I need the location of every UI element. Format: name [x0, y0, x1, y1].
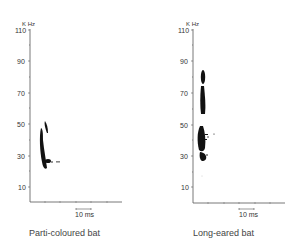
- left-tick-90: 90: [17, 58, 25, 65]
- right-tick-90: 90: [180, 58, 188, 65]
- left-tick-10: 10: [18, 184, 26, 191]
- right-scale-bar: 10 ms: [239, 208, 259, 218]
- left-tick-110: 110: [15, 27, 26, 34]
- left-tick-50: 50: [17, 121, 25, 128]
- right-scale-label: 10 ms: [239, 211, 259, 218]
- left-tick-70: 70: [17, 90, 25, 97]
- right-caption: Long-eared bat: [193, 228, 254, 238]
- left-scale-bar: 10 ms: [75, 208, 95, 218]
- left-scale-label: 10 ms: [75, 211, 95, 218]
- right-tick-70: 70: [180, 90, 188, 97]
- spectrogram-figure: K Hz 110 90 70 50: [0, 0, 305, 248]
- right-tick-110: 110: [178, 27, 189, 34]
- left-pulses: [40, 121, 60, 169]
- right-spectrogram: K Hz 110 90 70 50 30 10: [178, 21, 285, 218]
- left-tick-30: 30: [17, 153, 25, 160]
- right-tick-30: 30: [180, 153, 188, 160]
- right-tick-10: 10: [181, 184, 189, 191]
- left-spectrogram: K Hz 110 90 70 50: [15, 21, 122, 218]
- left-caption: Parti-coloured bat: [29, 228, 100, 238]
- right-tick-50: 50: [180, 122, 188, 129]
- right-pulses: [198, 70, 215, 176]
